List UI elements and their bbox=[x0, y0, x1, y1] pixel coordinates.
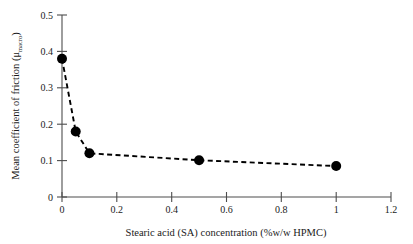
y-tick-label-3: 0.3 bbox=[41, 82, 54, 93]
data-point-1 bbox=[71, 126, 81, 136]
y-axis-title-main: Mean coefficient of friction (μ bbox=[10, 52, 22, 180]
y-tick-label-5: 0.5 bbox=[41, 10, 54, 21]
chart-plot-area: 0 0.1 0.2 0.3 0.4 0.5 0 0.2 0.4 0.6 0.8 … bbox=[0, 0, 413, 244]
data-point-4 bbox=[331, 161, 341, 171]
data-point-0 bbox=[57, 54, 67, 64]
y-axis-title-close: ) bbox=[10, 32, 22, 36]
y-tick-label-2: 0.2 bbox=[41, 119, 54, 130]
y-axis-title-subscript: macro bbox=[16, 36, 23, 52]
x-tick-label-3: 0.6 bbox=[220, 204, 233, 215]
x-tick-label-2: 0.4 bbox=[165, 204, 178, 215]
x-tick-label-6: 1.2 bbox=[385, 204, 398, 215]
series-line-mean-cof bbox=[62, 59, 336, 166]
x-tick-label-1: 0.2 bbox=[111, 204, 124, 215]
y-tick-label-0: 0 bbox=[48, 192, 53, 203]
svg-text:Mean coefficient of friction (: Mean coefficient of friction (μmacro) bbox=[10, 32, 23, 180]
x-tick-label-4: 0.8 bbox=[275, 204, 288, 215]
x-tick-label-0: 0 bbox=[60, 204, 65, 215]
x-axis-tick-labels: 0 0.2 0.4 0.6 0.8 1 1.2 bbox=[60, 204, 398, 215]
y-axis-title: Mean coefficient of friction (μmacro) bbox=[10, 32, 23, 180]
chart-figure: 0 0.1 0.2 0.3 0.4 0.5 0 0.2 0.4 0.6 0.8 … bbox=[0, 0, 413, 244]
x-tick-label-5: 1 bbox=[334, 204, 339, 215]
y-tick-label-4: 0.4 bbox=[41, 46, 54, 57]
data-point-3 bbox=[194, 155, 204, 165]
y-tick-label-1: 0.1 bbox=[41, 155, 54, 166]
data-point-2 bbox=[84, 148, 94, 158]
x-axis-title: Stearic acid (SA) concentration (%w/w HP… bbox=[126, 227, 327, 239]
y-axis-tick-labels: 0 0.1 0.2 0.3 0.4 0.5 bbox=[41, 10, 54, 203]
